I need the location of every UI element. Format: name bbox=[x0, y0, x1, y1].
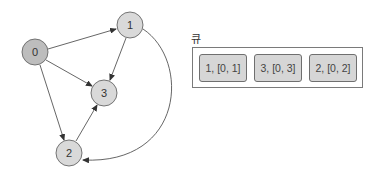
queue-label: 큐 bbox=[191, 30, 201, 46]
edge-1-3 bbox=[110, 38, 126, 80]
graph-node-1: 1 bbox=[117, 12, 143, 38]
graph-node-3: 3 bbox=[91, 80, 117, 106]
edge-2-3 bbox=[76, 105, 97, 141]
node-label: 0 bbox=[32, 46, 38, 58]
edge-0-3 bbox=[46, 60, 92, 86]
graph-diagram: 0132 bbox=[0, 0, 384, 178]
queue-item: 3, [0, 3] bbox=[254, 54, 302, 82]
edge-0-1 bbox=[48, 29, 116, 49]
queue-box: 1, [0, 1] 3, [0, 3] 2, [0, 2] bbox=[192, 47, 363, 88]
node-label: 3 bbox=[101, 87, 107, 99]
node-label: 2 bbox=[66, 147, 72, 159]
edge-0-2 bbox=[40, 65, 64, 140]
graph-node-0: 0 bbox=[22, 39, 48, 65]
queue-item: 2, [0, 2] bbox=[309, 54, 357, 82]
graph-node-2: 2 bbox=[56, 140, 82, 166]
node-label: 1 bbox=[127, 19, 133, 31]
queue-item: 1, [0, 1] bbox=[199, 54, 247, 82]
